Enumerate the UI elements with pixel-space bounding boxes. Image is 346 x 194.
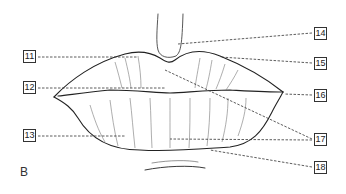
lip-anatomy-diagram: 11 12 13 14 15 16 17 18 B <box>0 0 346 194</box>
label-13: 13 <box>23 129 36 142</box>
label-14: 14 <box>314 27 327 40</box>
lip-illustration <box>0 0 346 194</box>
label-16: 16 <box>314 89 327 102</box>
label-17: 17 <box>314 133 327 146</box>
label-11: 11 <box>23 50 36 63</box>
label-12: 12 <box>23 81 36 94</box>
label-15: 15 <box>314 57 327 70</box>
panel-letter: B <box>20 165 28 179</box>
label-18: 18 <box>314 161 327 174</box>
